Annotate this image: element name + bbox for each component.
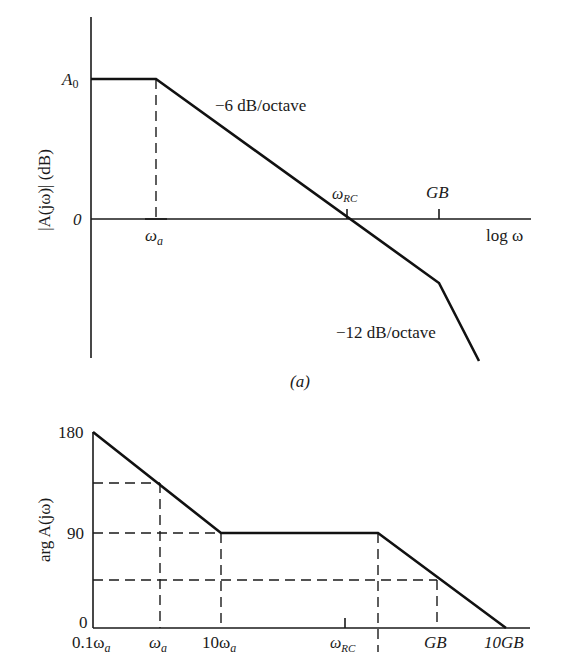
tick-label-gb: GB <box>424 633 447 652</box>
tick-label-10-gb: 10GB <box>484 633 524 652</box>
phase-y-label: arg A(jω) <box>35 498 54 562</box>
tick-label-zero: 0 <box>73 210 82 229</box>
phase-curve <box>93 432 506 628</box>
tick-label-180: 180 <box>58 423 84 442</box>
magnitude-curve <box>91 79 479 361</box>
bode-plot-figure: |A(jω)| (dB) A0 0 ωa ωRC GB log ω −6 dB/… <box>0 0 570 655</box>
tick-label-0: 0 <box>79 613 88 632</box>
tick-label-omega-a: ωa <box>149 633 167 655</box>
slope-label-12db: −12 dB/octave <box>336 323 436 342</box>
tick-label-0.1-omega-a: 0.1ωa <box>72 633 110 655</box>
magnitude-plot: |A(jω)| (dB) A0 0 ωa ωRC GB log ω −6 dB/… <box>35 17 531 391</box>
tick-label-10-omega-a: 10ωa <box>202 633 236 655</box>
tick-label-omega-rc: ωRC <box>330 634 356 654</box>
phase-plot: arg A(jω) 180 90 0 0.1ωa ωa 10ωa ωRC GB … <box>35 423 530 655</box>
slope-label-6db: −6 dB/octave <box>215 96 306 115</box>
tick-label-omega-rc: ωRC <box>332 185 358 204</box>
tick-label-90: 90 <box>67 524 84 543</box>
magnitude-x-label: log ω <box>486 226 523 245</box>
tick-label-A0: A0 <box>61 70 78 91</box>
tick-label-gb: GB <box>426 183 449 202</box>
panel-label-a: (a) <box>290 372 310 391</box>
magnitude-y-label: |A(jω)| (dB) <box>35 149 54 231</box>
tick-label-omega-a: ωa <box>145 226 163 248</box>
